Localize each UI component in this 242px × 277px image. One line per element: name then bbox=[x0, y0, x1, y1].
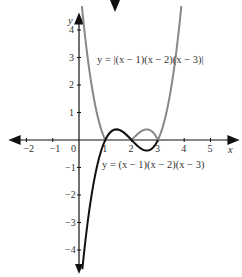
svg-text:−1: −1 bbox=[50, 143, 61, 154]
svg-text:2: 2 bbox=[69, 79, 74, 90]
svg-text:2: 2 bbox=[129, 143, 134, 154]
function-plot: −2−10123454321−1−2−3−4 x y y = |(x − 1)(… bbox=[0, 0, 242, 277]
axes bbox=[10, 14, 238, 268]
abs-curve-label: y = |(x − 1)(x − 2)(x − 3)| bbox=[97, 54, 204, 66]
abs-curve bbox=[82, 6, 181, 140]
svg-text:−1: −1 bbox=[65, 162, 76, 173]
svg-text:−3: −3 bbox=[65, 217, 76, 228]
svg-text:0: 0 bbox=[71, 143, 76, 154]
x-axis-label: x bbox=[227, 144, 233, 155]
svg-text:1: 1 bbox=[69, 107, 74, 118]
cubic-curve-label: y = (x − 1)(x − 2)(x − 3) bbox=[102, 159, 205, 171]
svg-text:−2: −2 bbox=[65, 189, 76, 200]
cubic-curve bbox=[82, 129, 158, 269]
top-arrow-marker bbox=[110, 0, 120, 12]
svg-text:5: 5 bbox=[208, 143, 213, 154]
svg-text:−4: −4 bbox=[65, 244, 76, 255]
svg-text:3: 3 bbox=[69, 52, 74, 63]
svg-text:−2: −2 bbox=[23, 143, 34, 154]
y-axis-label: y bbox=[67, 15, 73, 26]
svg-text:4: 4 bbox=[181, 143, 186, 154]
